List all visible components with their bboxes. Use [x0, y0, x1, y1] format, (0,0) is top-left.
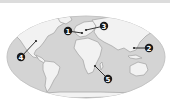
target-dot-2 — [133, 47, 135, 49]
target-dot-1 — [81, 32, 83, 34]
target-dot-4 — [35, 40, 37, 42]
marker-label-2: 2 — [147, 45, 152, 53]
marker-label-3: 3 — [102, 23, 107, 31]
marker-label-4: 4 — [19, 54, 24, 62]
marker-label-1: 1 — [66, 28, 71, 36]
world-map-svg: 1 2 3 4 5 — [0, 0, 170, 105]
world-map: 1 2 3 4 5 — [0, 0, 170, 105]
target-dot-3 — [85, 29, 87, 31]
marker-label-5: 5 — [106, 76, 111, 84]
target-dot-5 — [94, 65, 96, 67]
